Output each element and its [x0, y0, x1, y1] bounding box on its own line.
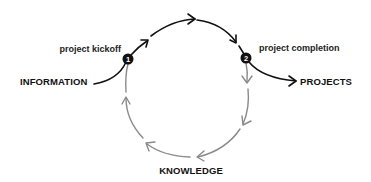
upper-cycle-arc [131, 14, 244, 55]
upper-arc-segment-1 [131, 41, 147, 55]
projects-output-arrow [249, 62, 296, 86]
upper-arc-segment-2 [151, 19, 195, 36]
lower-arc-segment-5 [126, 98, 143, 138]
arrowhead-icon [242, 116, 251, 125]
project-completion-label: project completion [259, 43, 340, 53]
lower-arc-segment-3 [198, 129, 240, 157]
lower-cycle-arc [122, 63, 252, 161]
lower-arc-segment-6 [126, 64, 128, 92]
project-kickoff-label: project kickoff [59, 44, 122, 54]
lower-arc-segment-1 [246, 63, 247, 82]
marker-2-number: 2 [244, 54, 248, 63]
projects-node-label: PROJECTS [300, 76, 352, 87]
lower-arc-segment-4 [147, 144, 190, 157]
lower-arc-segment-2 [243, 89, 248, 124]
marker-1: 1 [123, 54, 134, 65]
information-node-label: INFORMATION [20, 76, 87, 87]
marker-2: 2 [241, 53, 252, 64]
information-input-arrow [94, 62, 126, 84]
knowledge-node-label: KNOWLEDGE [159, 165, 223, 176]
upper-arc-segment-4 [239, 46, 244, 54]
upper-arc-segment-3 [197, 20, 236, 42]
knowledge-cycle-diagram: 1 2 project kickoff project completion I… [0, 0, 371, 182]
marker-1-number: 1 [126, 55, 130, 64]
